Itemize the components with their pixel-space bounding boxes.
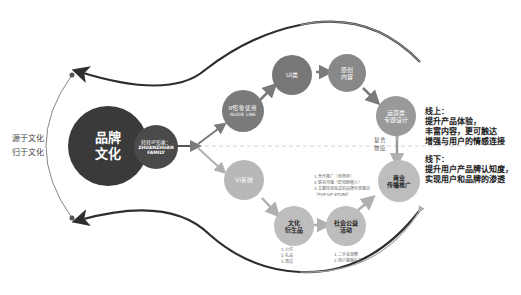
note-online-line: 增强与用户的情感连接 bbox=[425, 137, 505, 147]
node-ops-design-line2: 专题设计 bbox=[384, 116, 408, 123]
list-item: 2.用户感谢礼品 bbox=[334, 258, 362, 264]
composite-effect-line1: 复合 bbox=[374, 136, 386, 144]
note-offline: 线下： 提升用户产品牌认知度， 实现用户和品牌的渗透 bbox=[425, 155, 513, 185]
node-public-welfare-line2: 活动 bbox=[340, 226, 352, 233]
node-commercial-line1: 商业 bbox=[393, 174, 405, 181]
node-public-welfare-line1: 社会公益 bbox=[334, 219, 358, 226]
node-ip-image: 转转IP形象： ZHUANZHUAN FAMILY bbox=[134, 125, 178, 169]
node-ip-guideline: IP形象使用 GUIDE LINE bbox=[222, 90, 264, 132]
note-online-line: 丰富内容，更可触达 bbox=[425, 127, 505, 137]
node-derivatives-line1: 文化 bbox=[288, 219, 300, 226]
note-offline-line: 提升用户产品牌认知度， bbox=[425, 165, 513, 175]
node-brand-culture-line1: 品牌 bbox=[95, 130, 121, 146]
node-original-content-line2: 内容 bbox=[341, 73, 353, 80]
node-ops-design-line1: 运营类 bbox=[387, 109, 405, 116]
node-ip-image-line3: FAMILY bbox=[147, 150, 165, 155]
note-online-title: 线上： bbox=[425, 107, 505, 117]
node-derivatives-line2: 衍生品 bbox=[285, 226, 303, 233]
node-original-content: 原创 内容 bbox=[328, 54, 366, 92]
list-public-welfare: 1.二手衣捐赠 2.用户感谢礼品 bbox=[334, 252, 362, 264]
node-ip-guideline-line1: IP形象使用 bbox=[229, 105, 258, 112]
note-offline-title: 线下： bbox=[425, 155, 513, 165]
label-return-to-culture: 归于文化 bbox=[12, 147, 44, 159]
composite-effect-line2: 效应 bbox=[374, 144, 386, 152]
node-vi-system-line1: VI系统 bbox=[235, 176, 253, 183]
node-ops-design: 运营类 专题设计 bbox=[376, 96, 416, 136]
label-from-culture: 源于文化 bbox=[12, 133, 44, 145]
list-commercial: 1.合作推广（世界杯） 2.联名传播（影视剧植入） 3.主题性体验式的品牌外部输… bbox=[314, 174, 370, 198]
node-ui: UI类 bbox=[272, 55, 312, 95]
list-item: 3.周边 bbox=[281, 259, 293, 265]
list-derivatives: 1.公仔 2.礼品 3.周边 bbox=[281, 247, 293, 265]
node-vi-system: VI系统 bbox=[224, 160, 264, 200]
label-composite-effect: 复合 效应 bbox=[374, 136, 386, 152]
note-online-line: 提升产品体验， bbox=[425, 117, 505, 127]
note-online: 线上： 提升产品体验， 丰富内容，更可触达 增强与用户的情感连接 bbox=[425, 107, 505, 147]
node-commercial-promotion: 商业 传播推广 bbox=[378, 160, 420, 202]
node-ip-guideline-line2: GUIDE LINE bbox=[230, 112, 256, 117]
node-derivatives: 文化 衍生品 bbox=[274, 206, 314, 246]
list-item: （POP-UP STORE） bbox=[314, 192, 370, 198]
node-ui-line1: UI类 bbox=[286, 71, 298, 78]
note-offline-line: 实现用户和品牌的渗透 bbox=[425, 175, 513, 185]
node-original-content-line1: 原创 bbox=[341, 66, 353, 73]
node-public-welfare: 社会公益 活动 bbox=[326, 206, 366, 246]
node-brand-culture-line2: 文化 bbox=[95, 146, 121, 162]
node-commercial-line2: 传播推广 bbox=[387, 181, 411, 188]
